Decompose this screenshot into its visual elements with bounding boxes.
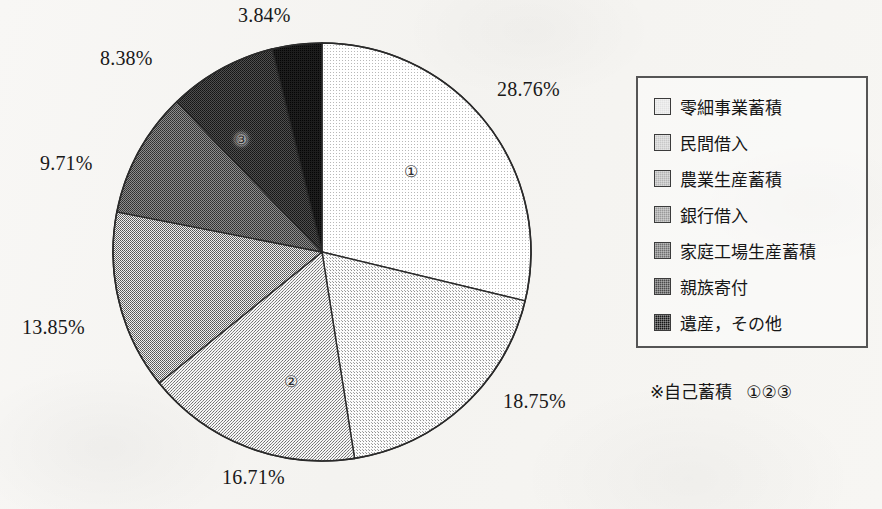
pie-slices	[113, 43, 531, 461]
legend-swatch	[654, 278, 671, 295]
legend-item[interactable]: 遺産，その他	[654, 304, 866, 340]
legend-swatch	[654, 98, 671, 115]
pie-percentage-label: 16.71%	[222, 466, 285, 489]
legend-item-label: 零細事業蓄積	[680, 94, 782, 119]
legend-items: 零細事業蓄積民間借入農業生産蓄積銀行借入家庭工場生産蓄積親族寄付遺産，その他	[654, 88, 866, 340]
pie-percentage-label: 8.38%	[100, 47, 153, 70]
legend-item-label: 親族寄付	[680, 274, 748, 299]
pie-percentage-label: 28.76%	[497, 78, 560, 101]
legend-swatch	[654, 134, 671, 151]
pie-chart-area: 28.76%18.75%16.71%13.85%9.71%8.38%3.84% …	[0, 0, 620, 509]
legend-item[interactable]: 零細事業蓄積	[654, 88, 866, 124]
pie-slice-marker: ②	[284, 374, 298, 390]
legend-item[interactable]: 銀行借入	[654, 196, 866, 232]
legend-item[interactable]: 家庭工場生産蓄積	[654, 232, 866, 268]
legend-swatch	[654, 242, 671, 259]
legend-note-text: ※自己蓄積	[650, 382, 732, 402]
legend-swatch	[654, 206, 671, 223]
legend-swatch	[654, 170, 671, 187]
pie-percentage-label: 18.75%	[503, 390, 566, 413]
legend-item-label: 民間借入	[680, 130, 748, 155]
legend-item[interactable]: 民間借入	[654, 124, 866, 160]
pie-percentage-label: 3.84%	[238, 4, 291, 27]
legend-note-circles: ①②③	[746, 382, 792, 402]
pie-chart-svg	[0, 0, 620, 509]
legend-item-label: 遺産，その他	[680, 310, 782, 335]
legend-swatch	[654, 314, 671, 331]
legend-item-label: 銀行借入	[680, 202, 748, 227]
legend-note: ※自己蓄積①②③	[650, 378, 792, 403]
legend-item-label: 農業生産蓄積	[680, 166, 782, 191]
legend: 零細事業蓄積民間借入農業生産蓄積銀行借入家庭工場生産蓄積親族寄付遺産，その他	[636, 76, 868, 348]
legend-item[interactable]: 農業生産蓄積	[654, 160, 866, 196]
pie-percentage-label: 13.85%	[22, 316, 85, 339]
legend-item[interactable]: 親族寄付	[654, 268, 866, 304]
pie-slice-marker: ③	[234, 132, 248, 148]
pie-percentage-label: 9.71%	[40, 152, 93, 175]
pie-slice-marker: ①	[404, 164, 418, 180]
legend-item-label: 家庭工場生産蓄積	[680, 238, 816, 263]
